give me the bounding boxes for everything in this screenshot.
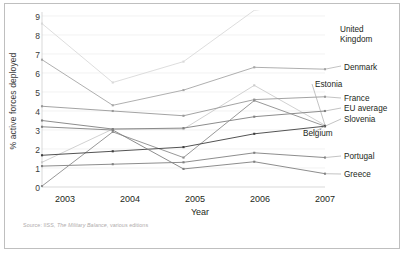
series-line-belgium	[42, 126, 325, 155]
data-point-belgium-2006	[253, 133, 255, 135]
source-note-prefix: Source: IISS,	[23, 222, 57, 228]
legend-label-slovenia: Slovenia	[344, 115, 375, 125]
source-note-title: The Military Balance	[57, 222, 107, 228]
legend-label-france: France	[344, 94, 369, 104]
data-point-eu-average-2005	[182, 127, 184, 129]
data-point-denmark-2005	[182, 89, 184, 91]
legend-leader-portugal	[325, 156, 341, 158]
x-axis-title: Year	[150, 207, 250, 217]
legend-leader-france	[325, 97, 341, 98]
data-point-greece-2005	[182, 168, 184, 170]
data-point-france-2004	[112, 110, 114, 112]
data-point-estonia-2003	[41, 161, 43, 163]
legend-leader-slovenia	[325, 119, 341, 126]
x-tick-2003: 2003	[42, 194, 88, 204]
x-tick-2005: 2005	[172, 194, 218, 204]
data-point-slovenia-2006	[253, 100, 255, 102]
data-point-eu-average-2006	[253, 116, 255, 118]
x-tick-2006: 2006	[237, 194, 283, 204]
data-point-portugal-2004	[112, 163, 114, 165]
data-point-estonia-2006	[253, 84, 255, 86]
data-point-belgium-2004	[112, 150, 114, 152]
data-point-belgium-2003	[41, 154, 43, 156]
data-point-portugal-2006	[253, 152, 255, 154]
series-line-france	[42, 97, 325, 116]
series-line-slovenia	[42, 101, 325, 187]
series-line-greece	[42, 127, 325, 174]
legend-leader-eu-average	[325, 108, 341, 111]
x-tick-2004: 2004	[107, 194, 153, 204]
series-line-united-kingdom	[42, 1, 325, 83]
legend-label-portugal: Portugal	[344, 152, 375, 162]
data-point-denmark-2003	[41, 59, 43, 61]
data-point-eu-average-2003	[41, 119, 43, 121]
data-point-portugal-2005	[182, 161, 184, 163]
data-point-slovenia-2005	[182, 157, 184, 159]
data-point-united-kingdom-2003	[41, 23, 43, 25]
legend-label-united-kingdom: United Kingdom	[340, 25, 372, 45]
data-point-denmark-2006	[253, 66, 255, 68]
data-point-france-2005	[182, 115, 184, 117]
figure: % active forces deployed 9 8 7 6 5 4 3 2…	[0, 0, 405, 253]
data-point-belgium-2005	[182, 146, 184, 148]
legend-label-greece: Greece	[344, 170, 371, 180]
data-point-france-2003	[41, 105, 43, 107]
x-tick-2007: 2007	[302, 194, 348, 204]
source-note: Source: IISS, The Military Balance, vari…	[23, 222, 148, 228]
legend-label-belgium: Belgium	[303, 129, 333, 139]
series-line-portugal	[42, 153, 325, 166]
legend-label-united-kingdom-line2: Kingdom	[340, 35, 372, 45]
legend-label-united-kingdom-line1: United	[340, 25, 372, 35]
data-point-united-kingdom-2005	[182, 61, 184, 63]
legend-label-eu-average: EU average	[344, 104, 387, 114]
data-point-slovenia-2004	[112, 131, 114, 133]
data-point-greece-2004	[112, 129, 114, 131]
legend-label-denmark: Denmark	[344, 63, 377, 73]
source-note-suffix: , various editions	[107, 222, 148, 228]
data-point-denmark-2004	[112, 104, 114, 106]
data-point-greece-2006	[253, 161, 255, 163]
data-point-slovenia-2003	[41, 185, 43, 187]
data-point-portugal-2003	[41, 165, 43, 167]
data-point-greece-2003	[41, 126, 43, 128]
series-line-eu-average	[42, 111, 325, 129]
legend-label-estonia: Estonia	[315, 80, 342, 90]
data-point-united-kingdom-2004	[112, 81, 114, 83]
series-line-estonia	[42, 85, 325, 162]
legend-leader-denmark	[325, 66, 341, 69]
